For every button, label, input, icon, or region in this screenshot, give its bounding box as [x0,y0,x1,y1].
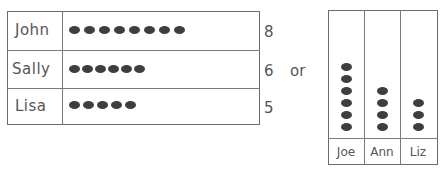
row-divider [7,88,260,89]
bean-symbol [82,65,93,73]
value-label-sally: 6 [264,62,274,80]
connector-text: or [290,62,305,80]
bean-symbol [377,99,388,107]
bean-symbol [99,26,110,34]
row-label-john: John [15,21,50,39]
bean-symbol [341,63,352,71]
bean-symbol [69,26,80,34]
value-label-lisa: 5 [264,99,274,117]
bean-symbol [377,123,388,131]
bean-symbol [341,87,352,95]
bean-symbol [134,65,145,73]
bean-symbol [114,26,125,34]
bean-symbol [413,99,424,107]
bean-symbol [174,26,185,34]
bean-symbol [83,101,94,109]
value-label-john: 8 [264,23,274,41]
label-row-divider [328,138,438,139]
row-divider [7,50,260,51]
bean-symbol [377,111,388,119]
bean-symbol [413,123,424,131]
bean-symbol [129,26,140,34]
bean-symbol [413,111,424,119]
bean-symbol [111,101,122,109]
row-label-lisa: Lisa [15,97,47,115]
bean-symbol [121,65,132,73]
bean-symbol [97,101,108,109]
bean-symbol [144,26,155,34]
bean-symbol [159,26,170,34]
bean-symbol [377,87,388,95]
bean-symbol [341,123,352,131]
row-label-sally: Sally [12,60,50,78]
bean-symbol [125,101,136,109]
bean-symbol [341,75,352,83]
bean-symbol [108,65,119,73]
column-divider [364,10,365,165]
name-column-divider [62,11,63,125]
column-label-joe: Joe [328,145,364,159]
bean-symbol [95,65,106,73]
column-label-ann: Ann [364,145,400,159]
column-divider [400,10,401,165]
bean-symbol [69,101,80,109]
column-label-liz: Liz [400,145,436,159]
bean-symbol [341,111,352,119]
bean-symbol [341,99,352,107]
bean-symbol [84,26,95,34]
bean-symbol [69,65,80,73]
